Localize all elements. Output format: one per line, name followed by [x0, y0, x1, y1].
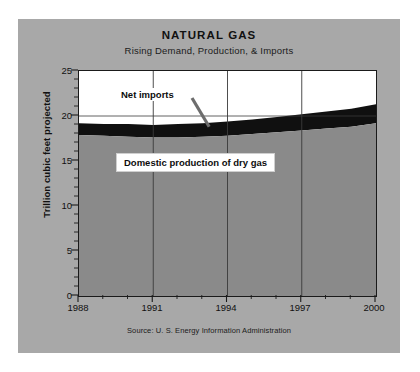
- y-tick-label-0: 0: [46, 290, 72, 301]
- y-tick-label-20: 20: [46, 110, 72, 121]
- y-tick-label-5: 5: [46, 245, 72, 256]
- x-tick-label-1991: 1991: [130, 302, 174, 313]
- chart-title: NATURAL GAS: [18, 29, 400, 41]
- y-tick-label-10: 10: [46, 200, 72, 211]
- annotation-net-imports: Net imports: [118, 88, 177, 101]
- chart-canvas: [79, 71, 376, 296]
- chart-card: NATURAL GAS Rising Demand, Production, &…: [18, 19, 400, 353]
- chart-figure: NATURAL GAS Rising Demand, Production, &…: [0, 0, 420, 372]
- x-tick-label-1988: 1988: [56, 302, 100, 313]
- y-tick-label-25: 25: [46, 65, 72, 76]
- chart-source: Source: U. S. Energy Information Adminis…: [18, 326, 400, 335]
- annotation-domestic-production: Domestic production of dry gas: [116, 153, 275, 172]
- x-tick-label-1997: 1997: [278, 302, 322, 313]
- y-tick-label-15: 15: [46, 155, 72, 166]
- plot-area: [78, 70, 377, 297]
- x-tick-label-2000: 2000: [352, 302, 396, 313]
- chart-subtitle: Rising Demand, Production, & Imports: [18, 45, 400, 56]
- x-tick-label-1994: 1994: [204, 302, 248, 313]
